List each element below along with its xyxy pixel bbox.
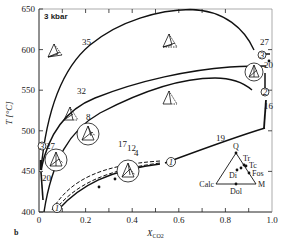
x-axis-title: XCO2 [146, 228, 164, 239]
inset-vertex-calc: Calc [199, 180, 214, 189]
y-tick-500: 500 [22, 126, 36, 136]
label-35: 35 [82, 37, 92, 47]
phase-diagram-figure: 650 600 550 500 450 400 0 0.2 0.4 0.6 0.… [0, 0, 281, 242]
x-tick-0-8: 0.8 [220, 215, 232, 225]
x-tick-0: 0 [37, 215, 42, 225]
label-32: 32 [77, 86, 86, 96]
point-2-right: 2 [263, 87, 268, 97]
dashed-curves [52, 161, 160, 210]
triangle-icon [163, 91, 177, 104]
curve-8 [44, 78, 252, 212]
inset-phase-di: Di [229, 171, 238, 180]
triangle-circle-icon [245, 63, 263, 81]
x-tick-1-0: 1.0 [266, 215, 278, 225]
y-tick-450: 450 [22, 166, 36, 176]
reaction-curves [41, 10, 270, 213]
curve-17 [52, 161, 160, 210]
inset-vertex-m: M [258, 180, 265, 189]
label-16: 16 [264, 101, 274, 111]
label-4: 4 [134, 148, 139, 158]
triangle-circle-icon [117, 160, 139, 182]
triangle-circle-icon [45, 149, 67, 171]
x-tick-0-2: 0.2 [80, 215, 91, 225]
x-tick-0-4: 0.4 [127, 215, 139, 225]
label-8: 8 [86, 112, 91, 122]
label-19: 19 [216, 133, 226, 143]
inset-vertex-q: Q [233, 142, 239, 151]
curve-12 [55, 163, 160, 210]
label-20-left: 20 [42, 173, 52, 183]
point-1-mid: 1 [169, 157, 174, 167]
y-tick-600: 600 [22, 45, 36, 55]
panel-label: b [14, 228, 19, 237]
triangle-circle-icon [77, 123, 99, 145]
point-1-bottom: 1 [55, 203, 60, 213]
curve-35 [41, 10, 254, 171]
pressure-label: 3 kbar [44, 12, 68, 21]
curve-4 [58, 164, 160, 210]
point-3-left: 3 [39, 141, 45, 151]
curve-point [114, 178, 117, 181]
y-tick-550: 550 [22, 85, 36, 95]
label-27-right: 27 [260, 37, 270, 47]
inset-ternary-diagram: Q Calc M Tr Tc Fos Di Dol [199, 142, 265, 196]
y-tick-400: 400 [22, 207, 36, 217]
point-3-right: 3 [259, 50, 265, 60]
triangle-icon [163, 34, 177, 47]
inset-phase-fos: Fos [252, 169, 264, 178]
x-tick-0-6: 0.6 [173, 215, 185, 225]
label-20-right: 20 [264, 60, 274, 70]
triangle-icon [48, 44, 62, 57]
y-axis-title: T [°C] [4, 101, 14, 125]
curve-point [98, 186, 101, 189]
y-tick-650: 650 [22, 4, 36, 14]
inset-phase-dol: Dol [230, 187, 243, 196]
curve-32 [41, 66, 266, 170]
